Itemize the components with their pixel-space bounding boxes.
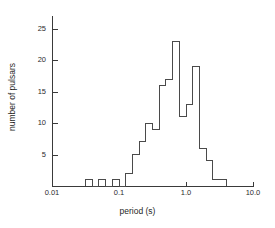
x-tick-label: 0.01 xyxy=(39,189,65,197)
y-axis-line xyxy=(52,16,53,187)
y-tick-label: 25 xyxy=(28,25,46,33)
y-tick-mark xyxy=(53,155,58,156)
x-tick-mark xyxy=(119,182,120,187)
y-tick-mark xyxy=(53,92,58,93)
y-tick-label: 15 xyxy=(28,88,46,96)
y-tick-mark xyxy=(53,29,58,30)
x-tick-label: 0.1 xyxy=(106,189,132,197)
x-tick-mark xyxy=(186,182,187,187)
x-axis-line xyxy=(52,186,254,187)
pulsar-period-histogram-figure: 510152025 0.010.11.010.0 period (s) numb… xyxy=(0,0,275,228)
x-tick-mark xyxy=(52,182,53,187)
x-axis-title: period (s) xyxy=(0,206,275,216)
x-tick-label: 1.0 xyxy=(173,189,199,197)
y-axis-title: number of pulsars xyxy=(7,37,17,157)
y-tick-mark xyxy=(53,60,58,61)
histogram-step-outline xyxy=(86,41,227,186)
y-tick-label: 5 xyxy=(28,151,46,159)
x-tick-mark xyxy=(253,182,254,187)
y-tick-label: 20 xyxy=(28,56,46,64)
y-tick-label: 10 xyxy=(28,119,46,127)
y-tick-mark xyxy=(53,123,58,124)
x-tick-label: 10.0 xyxy=(240,189,266,197)
